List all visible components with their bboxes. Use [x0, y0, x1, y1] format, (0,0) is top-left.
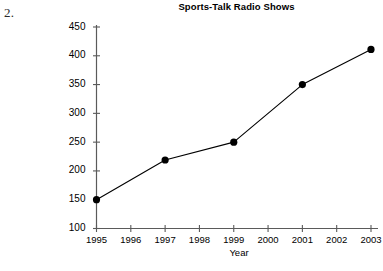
- y-tick-label: 350: [46, 79, 86, 89]
- data-point-marker: [367, 46, 374, 53]
- data-point-marker: [230, 139, 237, 146]
- y-tick-label: 150: [46, 194, 86, 204]
- data-point-marker: [299, 81, 306, 88]
- x-tick-label: 2003: [351, 235, 383, 245]
- data-point-marker: [162, 156, 169, 163]
- x-axis-title: Year: [95, 247, 383, 258]
- y-tick-label: 200: [46, 165, 86, 175]
- y-tick-label: 250: [46, 137, 86, 147]
- y-tick-label: 100: [46, 223, 86, 233]
- figure-container: 2. Sports-Talk Radio Shows 1001502002503…: [0, 0, 383, 271]
- y-tick-label: 450: [46, 22, 86, 32]
- data-point-marker: [93, 196, 100, 203]
- y-tick-label: 400: [46, 50, 86, 60]
- data-series-line: [97, 49, 372, 199]
- y-tick-label: 300: [46, 108, 86, 118]
